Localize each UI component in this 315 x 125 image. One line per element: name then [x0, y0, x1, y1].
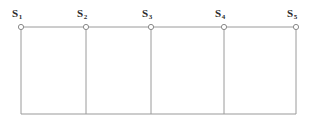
- node-label-s1-base: S: [12, 7, 18, 19]
- node-label-s5-base: S: [287, 7, 293, 19]
- node-label-s3: S3: [142, 8, 152, 19]
- vertical-members-group: [21, 27, 296, 114]
- node-label-s4-base: S: [215, 7, 221, 19]
- node-label-s2-base: S: [77, 7, 83, 19]
- node-label-s1: S1: [12, 8, 22, 19]
- node-label-s3-base: S: [142, 7, 148, 19]
- node-label-s2: S2: [77, 8, 87, 19]
- node-label-s4: S4: [215, 8, 225, 19]
- node-marker-s5[interactable]: [293, 24, 298, 29]
- node-marker-s2[interactable]: [83, 24, 88, 29]
- node-label-s5: S5: [287, 8, 297, 19]
- node-label-s5-subscript: 5: [294, 13, 298, 21]
- diagram-canvas: S1 S2 S3 S4 S5: [0, 0, 315, 125]
- diagram-vector-layer: [0, 0, 315, 125]
- node-marker-s3[interactable]: [148, 24, 153, 29]
- node-marker-s1[interactable]: [18, 24, 23, 29]
- node-marker-s4[interactable]: [221, 24, 226, 29]
- node-label-s4-subscript: 4: [222, 13, 226, 21]
- node-label-s3-subscript: 3: [149, 13, 153, 21]
- node-label-s2-subscript: 2: [84, 13, 88, 21]
- node-label-s1-subscript: 1: [19, 13, 23, 21]
